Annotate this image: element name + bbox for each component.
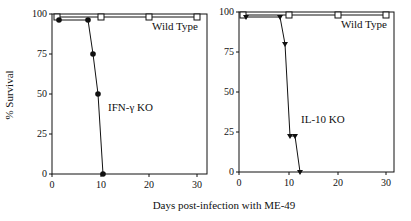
left-ko-line — [59, 20, 103, 174]
x-tick-label: 20 — [144, 179, 154, 190]
y-tick-label: 50 — [37, 88, 47, 99]
y-axis-label: % Survival — [3, 70, 15, 119]
y-tick-label: 0 — [42, 168, 47, 179]
x-tick-label: 20 — [333, 177, 343, 188]
y-tick-label: 25 — [37, 128, 47, 139]
y-tick-label: 0 — [229, 166, 234, 177]
right-wildtype-label: Wild Type — [341, 18, 387, 30]
right-ko-line — [246, 17, 300, 172]
x-tick-label: 10 — [284, 177, 294, 188]
right-ko-label: IL-10 KO — [301, 113, 345, 125]
figure: % Survival 0 25 50 75 100 0 10 20 30 Wil… — [0, 0, 411, 221]
left-plot-frame — [52, 14, 207, 174]
x-axis-label: Days post-infection with ME-49 — [153, 199, 296, 211]
y-tick-label: 75 — [37, 48, 47, 59]
right-y-ticks: 0 25 50 75 100 — [219, 6, 239, 177]
y-tick-label: 100 — [219, 6, 234, 17]
x-tick-label: 30 — [192, 179, 202, 190]
right-plot-frame — [239, 12, 394, 172]
left-ko-label: IFN-γ KO — [108, 101, 153, 113]
y-tick-label: 25 — [224, 126, 234, 137]
x-tick-label: 10 — [96, 179, 106, 190]
x-tick-label: 0 — [50, 179, 55, 190]
x-tick-label: 30 — [381, 177, 391, 188]
y-tick-label: 100 — [32, 8, 47, 19]
right-panel: 0 25 50 75 100 0 10 20 30 Wild Type IL-1… — [219, 6, 394, 188]
right-ko-markers — [243, 15, 303, 175]
y-tick-label: 75 — [224, 46, 234, 57]
left-y-ticks: 0 25 50 75 100 — [32, 8, 52, 179]
x-tick-label: 0 — [237, 177, 242, 188]
left-x-ticks: 0 10 20 30 — [50, 174, 203, 190]
y-tick-label: 50 — [224, 86, 234, 97]
right-x-ticks: 0 10 20 30 — [237, 172, 392, 188]
left-wildtype-label: Wild Type — [152, 20, 198, 32]
left-panel: 0 25 50 75 100 0 10 20 30 Wild Type IFN-… — [32, 8, 207, 190]
